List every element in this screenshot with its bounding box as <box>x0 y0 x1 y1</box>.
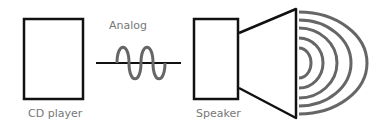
cd-player-box <box>24 19 83 99</box>
cd-player-label: CD player <box>28 107 83 120</box>
speaker-cone-icon <box>239 9 296 118</box>
sound-waves-icon <box>299 12 367 114</box>
analog-label: Analog <box>109 19 147 32</box>
diagram-canvas: CD player Analog Speaker <box>0 0 387 132</box>
speaker-box <box>194 19 238 99</box>
speaker-label: Speaker <box>196 107 241 120</box>
